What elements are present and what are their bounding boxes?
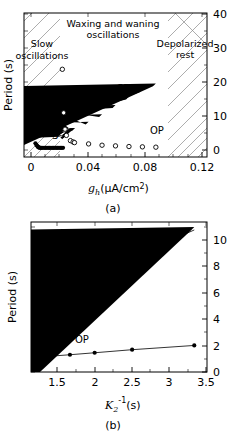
data-point-op-cluster: [60, 67, 64, 71]
panel-a-plot: 0 0.04 0.08 0.12 0 10 20 30 40 Period (s…: [0, 0, 251, 218]
figure-container: 0 0.04 0.08 0.12 0 10 20 30 40 Period (s…: [0, 0, 251, 433]
data-point-op-cluster: [72, 140, 76, 144]
data-point-s: [61, 146, 65, 150]
data-point-op-cluster: [61, 111, 65, 115]
panel-b-ytick-2: 4: [213, 313, 220, 326]
panel-a-xaxis-title-units: (μA/cm: [100, 182, 139, 195]
data-point-op: [93, 351, 97, 355]
panel-b-ytick-1: 2: [213, 340, 220, 353]
panel-b-xtick-3: 3: [166, 376, 173, 389]
panel-b-xaxis-title-sup: -1: [118, 396, 126, 405]
data-point-op: [113, 144, 117, 148]
panel-a-ytick-4: 40: [213, 8, 227, 21]
panel-a-ytick-0: 0: [213, 144, 220, 157]
panel-b-xaxis-title-units: (s): [126, 399, 140, 412]
panel-a-ytick-3: 30: [213, 42, 227, 55]
panel-a-xaxis-title-g: g: [88, 182, 95, 195]
panel-a-caption: (a): [105, 202, 120, 215]
series-label-S: S: [52, 130, 58, 141]
svg-text:K2-1(s): K2-1(s): [104, 396, 141, 414]
region-label-slow-line1: Slow: [31, 38, 53, 49]
panel-b-ytick-4: 8: [213, 260, 220, 273]
data-point-op-cluster: [63, 127, 67, 131]
panel-a-ytick-1: 10: [213, 110, 227, 123]
data-point-op-cluster: [64, 133, 68, 137]
data-point-op: [100, 143, 104, 147]
data-point-op: [130, 348, 134, 352]
panel-b-xaxis-title: K2-1(s): [104, 396, 141, 414]
panel-b-xtick-2: 2.5: [123, 376, 141, 389]
region-label-waxing-line1: Waxing and waning: [66, 18, 159, 29]
panel-b-ytick-5: 10: [213, 234, 227, 247]
panel-a-ytick-2: 20: [213, 76, 227, 89]
data-point-op: [68, 353, 72, 357]
panel-a-xtick-3: 0.12: [190, 161, 215, 174]
panel-b-caption: (b): [105, 419, 121, 432]
region-label-depol-line2: rest: [176, 49, 194, 60]
panel-b-xaxis-title-sub: 2: [112, 405, 118, 414]
svg-text:gh(μA/cm2): gh(μA/cm2): [88, 182, 149, 198]
data-point-op: [140, 145, 144, 149]
panel-b-ytick-3: 6: [213, 287, 220, 300]
data-point-op: [192, 343, 196, 347]
data-point-op: [154, 145, 158, 149]
data-point-op: [50, 354, 54, 358]
panel-b-xtick-1: 2: [92, 376, 99, 389]
panel-b-ytick-0: 0: [213, 366, 220, 379]
data-point-op: [86, 142, 90, 146]
panel-a-yaxis-title: Period (s): [2, 59, 15, 111]
series-label-SP-a: SP: [117, 83, 129, 94]
panel-a-xtick-1: 0.04: [76, 161, 101, 174]
series-label-OP-b: OP: [75, 334, 89, 345]
panel-a-xtick-2: 0.08: [133, 161, 158, 174]
region-label-slow-line2: oscillations: [16, 50, 69, 61]
panel-b: 1.5 2 2.5 3 3.5 0 2 4 6 8 10 Period (s) …: [0, 215, 251, 433]
series-label-OP-a: OP: [150, 125, 164, 136]
panel-b-xtick-0: 1.5: [48, 376, 66, 389]
region-label-waxing-line2: oscillations: [87, 29, 140, 40]
data-point-op: [34, 355, 38, 359]
series-label-SP-b: SP: [57, 294, 69, 305]
panel-b-yaxis-title: Period (s): [6, 271, 19, 323]
panel-a: 0 0.04 0.08 0.12 0 10 20 30 40 Period (s…: [0, 0, 251, 218]
panel-b-plot: 1.5 2 2.5 3 3.5 0 2 4 6 8 10 Period (s) …: [0, 215, 251, 433]
panel-a-xaxis-title-close: ): [145, 182, 149, 195]
panel-a-xtick-0: 0: [28, 161, 35, 174]
data-point-op: [127, 144, 131, 148]
region-label-depol-line1: Depolarized: [157, 38, 214, 49]
panel-a-xaxis-title: gh(μA/cm2): [88, 182, 149, 198]
